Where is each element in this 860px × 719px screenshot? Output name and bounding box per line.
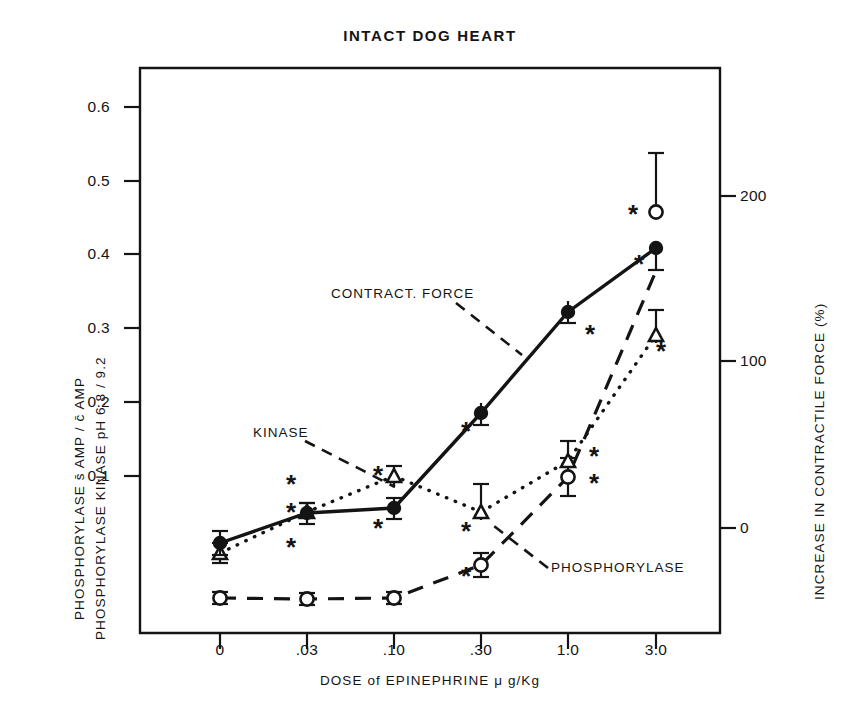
- leader-phosphorylase: [490, 523, 548, 568]
- asterisk-contract-10: *: [585, 319, 596, 349]
- y-axis-left-ticks: [124, 107, 140, 476]
- series-kinase: [212, 310, 664, 563]
- series-phosphorylase-markers: [213, 205, 662, 605]
- series-contract-force: [212, 241, 664, 555]
- significance-markers: * * * * * * * * * * * * * *: [286, 199, 667, 591]
- x-axis-ticks: [220, 633, 656, 649]
- asterisk-contract-030: *: [461, 416, 472, 446]
- series-phosphorylase: [212, 153, 664, 606]
- series-phosphorylase-errorbars: [212, 153, 664, 605]
- y-axis-right-ticks: [720, 196, 736, 528]
- series-contract-force-errorbars: [212, 241, 664, 555]
- asterisk-contract-003b: *: [286, 532, 297, 562]
- annotation-leaders: [305, 303, 548, 568]
- asterisk-kinase-030: *: [461, 516, 472, 546]
- asterisk-phos-030: *: [461, 561, 472, 591]
- figure-container: INTACT DOG HEART PHOSPHORYLASE s̄ AMP / …: [0, 0, 860, 719]
- asterisk-phos-30: *: [628, 199, 639, 229]
- asterisk-contract-003: *: [286, 469, 297, 499]
- asterisk-phos-10b: *: [589, 468, 600, 498]
- asterisk-kinase-003: *: [286, 497, 297, 527]
- leader-contract-force: [456, 303, 522, 355]
- axis-frame: [140, 68, 720, 633]
- series-contract-force-markers: [214, 242, 662, 549]
- asterisk-phos-10a: *: [589, 441, 600, 471]
- plot-area: * * * * * * * * * * * * * *: [0, 0, 860, 719]
- asterisk-contract-010: *: [373, 513, 384, 543]
- asterisk-kinase-30: *: [656, 336, 667, 366]
- asterisk-kinase-010: *: [373, 460, 384, 490]
- asterisk-contract-30: *: [634, 249, 645, 279]
